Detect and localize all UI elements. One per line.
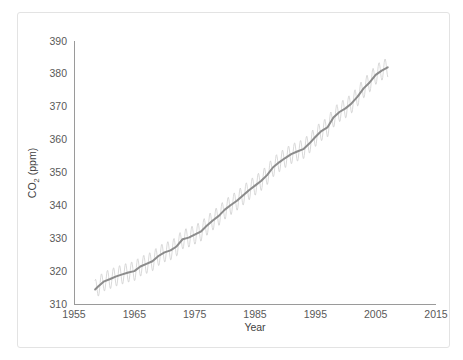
top-edge-artifact [28,0,288,8]
x-axis-tick-labels: 1955196519751985199520052015 [62,308,448,320]
y-axis-title-base: CO [26,182,38,198]
y-axis-tick-labels: 310320330340350360370380390 [49,35,67,310]
x-tick-label: 1955 [62,308,86,320]
x-tick-label: 1975 [183,308,207,320]
x-tick-label: 2015 [424,308,448,320]
co2-trend-line [95,67,388,289]
y-tick-label: 380 [49,67,67,79]
y-tick-label: 330 [49,232,67,244]
y-axis-title: CO2 (ppm) [26,148,41,198]
x-tick-label: 1965 [123,308,147,320]
co2-monthly-oscillation-line [95,59,388,296]
y-tick-label: 390 [49,35,67,47]
x-tick-label: 1995 [304,308,328,320]
y-tick-label: 350 [49,166,67,178]
x-axis-title: Year [244,321,266,333]
y-axis-title-group: CO2 (ppm) [26,148,41,198]
co2-keeling-curve-chart: 310320330340350360370380390 195519651975… [18,13,451,349]
y-tick-label: 360 [49,133,67,145]
chart-card: 310320330340350360370380390 195519651975… [17,12,450,348]
y-tick-label: 320 [49,265,67,277]
x-tick-label: 1985 [243,308,267,320]
x-tick-label: 2005 [364,308,388,320]
y-axis-title-unit: (ppm) [26,148,38,178]
y-tick-label: 370 [49,100,67,112]
y-tick-label: 340 [49,199,67,211]
chart-plot-area: 310320330340350360370380390 195519651975… [18,13,451,349]
